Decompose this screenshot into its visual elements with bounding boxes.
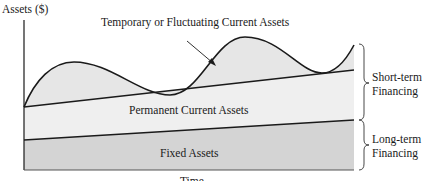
fixed-assets-label: Fixed Assets xyxy=(160,147,218,160)
x-axis-label: Time xyxy=(180,175,204,181)
temporary-assets-label: Temporary or Fluctuating Current Assets xyxy=(101,16,289,29)
long-term-label-2: Financing xyxy=(372,147,418,160)
arrow-line xyxy=(187,41,213,63)
permanent-assets-label: Permanent Current Assets xyxy=(129,104,248,117)
short-term-brace-icon xyxy=(359,44,369,120)
long-term-brace-icon xyxy=(359,120,369,170)
short-term-label-2: Financing xyxy=(372,85,418,98)
y-axis-label: Assets ($) xyxy=(2,3,48,16)
short-term-label-1: Short-term xyxy=(372,71,422,84)
long-term-label-1: Long-term xyxy=(372,133,421,146)
